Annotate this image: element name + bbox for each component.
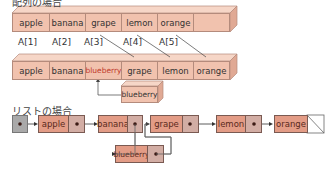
array-cell: banana <box>49 61 86 80</box>
inserted-element-box: blueberry <box>121 86 158 103</box>
array-index: A[1] <box>18 37 37 47</box>
array-index: A[3] <box>84 37 103 47</box>
list-node-data: banana <box>98 115 128 133</box>
array-cell: lemon <box>121 13 158 32</box>
array-cell-empty <box>193 13 230 32</box>
list-node-data: orange <box>274 115 308 133</box>
array-cell: grape <box>121 61 158 80</box>
list-inserted-node-data: blueberry <box>115 145 148 163</box>
list-node-data: grape <box>150 115 183 133</box>
array-index: A[2] <box>52 37 71 47</box>
list-head-node <box>12 115 28 133</box>
array-index: A[5] <box>159 37 178 47</box>
array-cell: orange <box>157 13 194 32</box>
array-cell: apple <box>12 61 50 80</box>
list-inserted-node-pointer <box>147 145 164 163</box>
list-node-pointer <box>127 115 143 133</box>
list-node-data: lemon <box>216 115 246 133</box>
list-node-pointer <box>182 115 199 133</box>
array-cell: grape <box>85 13 122 32</box>
list-node-pointer <box>245 115 262 133</box>
array-index: A[4] <box>123 37 142 47</box>
array-cell: lemon <box>157 61 194 80</box>
array-cell: orange <box>193 61 230 80</box>
array-cell: apple <box>12 13 50 32</box>
array-section-title: 配列の場合 <box>12 0 62 9</box>
array-cell: banana <box>49 13 86 32</box>
list-node-data: apple <box>38 115 69 133</box>
list-node-pointer <box>68 115 85 133</box>
array-cell-inserted: blueberry <box>85 61 122 80</box>
